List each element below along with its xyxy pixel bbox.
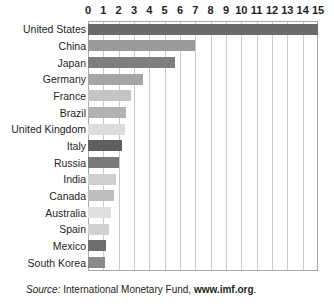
source-period: . [254,284,257,295]
bar-china [88,40,195,51]
bar-brazil [88,107,126,118]
category-label-japan: Japan [0,57,86,69]
x-tick-7: 7 [192,4,198,17]
category-label-china: China [0,40,86,52]
source-organization: International Monetary Fund, [63,284,191,295]
bar-row: France [0,88,334,105]
x-tick-2: 2 [116,4,122,17]
category-label-france: France [0,90,86,102]
source-caption: Source: International Monetary Fund, www… [26,283,256,296]
bar-row: United Kingdom [0,121,334,138]
bar-row: Japan [0,54,334,71]
category-label-mexico: Mexico [0,240,86,252]
category-label-germany: Germany [0,73,86,85]
bar-row: Mexico [0,238,334,255]
category-label-india: India [0,173,86,185]
bar-australia [88,207,111,218]
category-label-brazil: Brazil [0,107,86,119]
x-tick-10: 10 [235,4,247,17]
x-tick-3: 3 [131,4,137,17]
bar-row: United States [0,21,334,38]
bar-germany [88,74,143,85]
category-label-italy: Italy [0,140,86,152]
x-tick-4: 4 [146,4,152,17]
source-url[interactable]: www.imf.org [194,284,254,295]
bar-row: Spain [0,221,334,238]
x-tick-0: 0 [85,4,91,17]
bar-rows: United StatesChinaJapanGermanyFranceBraz… [0,21,334,271]
bar-south-korea [88,257,105,268]
x-tick-12: 12 [266,4,278,17]
bar-italy [88,140,122,151]
x-tick-11: 11 [251,4,263,17]
bar-spain [88,224,109,235]
source-label: Source: [26,284,60,295]
x-tick-15: 15 [312,4,324,17]
category-label-united-states: United States [0,23,86,35]
bar-row: Australia [0,204,334,221]
bar-japan [88,57,175,68]
category-label-canada: Canada [0,190,86,202]
x-tick-1: 1 [100,4,106,17]
bar-row: China [0,38,334,55]
bar-france [88,90,131,101]
bar-canada [88,190,114,201]
bar-mexico [88,240,106,251]
x-tick-9: 9 [223,4,229,17]
bar-row: Brazil [0,104,334,121]
x-tick-13: 13 [281,4,293,17]
bar-russia [88,157,119,168]
x-axis-tick-labels: 0123456789101112131415 [88,4,318,20]
bar-united-states [88,24,318,35]
bar-row: Italy [0,138,334,155]
category-label-united-kingdom: United Kingdom [0,123,86,135]
x-tick-8: 8 [208,4,214,17]
bar-row: Russia [0,154,334,171]
category-label-australia: Australia [0,207,86,219]
x-tick-6: 6 [177,4,183,17]
bar-row: India [0,171,334,188]
bar-india [88,174,116,185]
bar-chart-figure: 0123456789101112131415 United StatesChin… [0,0,334,307]
bar-row: Canada [0,188,334,205]
bar-row: Germany [0,71,334,88]
plot-wrapper: 0123456789101112131415 United StatesChin… [0,0,334,272]
x-tick-5: 5 [162,4,168,17]
bar-united-kingdom [88,124,125,135]
x-tick-14: 14 [297,4,309,17]
category-label-south-korea: South Korea [0,257,86,269]
category-label-russia: Russia [0,157,86,169]
category-label-spain: Spain [0,223,86,235]
bar-row: South Korea [0,254,334,271]
